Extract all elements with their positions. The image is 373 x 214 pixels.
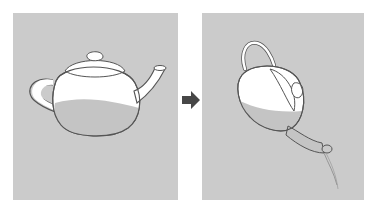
- panel-tilted-teapot: [202, 13, 364, 200]
- teapot-upright-illustration: [13, 13, 178, 200]
- teapot-tilted-illustration: [202, 13, 364, 200]
- right-arrow-icon: [181, 91, 201, 109]
- panel-upright-teapot: [13, 13, 178, 200]
